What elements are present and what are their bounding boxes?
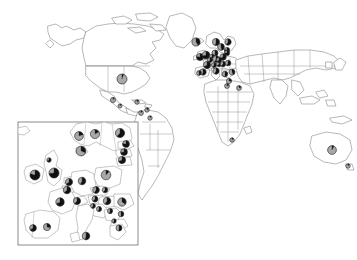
pie-chart <box>30 170 40 180</box>
europe-inset-layer <box>0 0 357 260</box>
pie-chart <box>96 206 101 211</box>
pie-chart <box>90 129 99 138</box>
pie-chart <box>65 178 72 185</box>
pie-chart <box>93 187 100 194</box>
pie-chart <box>123 141 130 148</box>
pie-chart <box>112 219 116 223</box>
pie-chart <box>76 146 86 156</box>
pie-chart <box>56 198 64 206</box>
pie-chart <box>43 223 50 230</box>
pie-chart <box>115 128 124 137</box>
pie-chart <box>107 208 112 213</box>
pie-chart <box>121 149 128 156</box>
pie-chart <box>49 168 59 178</box>
pie-chart <box>92 196 98 202</box>
pie-chart <box>91 204 96 209</box>
pie-chart <box>118 198 126 206</box>
map-figure <box>0 0 357 260</box>
pie-chart <box>73 197 80 204</box>
pie-chart <box>78 177 86 185</box>
pie-chart <box>103 197 111 205</box>
pie-chart <box>118 211 124 217</box>
pie-chart <box>75 132 84 141</box>
pie-chart <box>63 186 71 194</box>
pie-chart <box>102 187 108 193</box>
pie-chart <box>101 170 111 180</box>
pie-chart <box>116 225 122 231</box>
pie-chart <box>30 225 37 232</box>
pie-chart <box>82 232 90 240</box>
pie-chart <box>47 158 51 162</box>
pie-chart <box>118 156 125 163</box>
